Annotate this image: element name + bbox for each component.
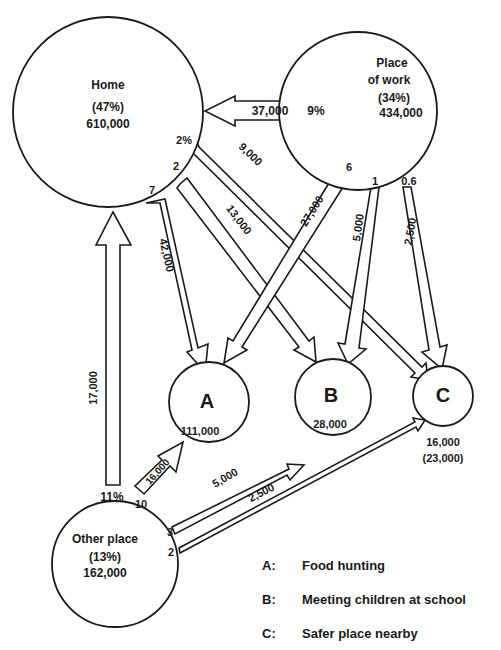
work-pct: (34%)	[378, 91, 410, 105]
pct-work-to-home: 9%	[307, 104, 325, 118]
pct-work-to-b: 1	[372, 175, 378, 187]
legend-label: Safer place nearby	[302, 626, 418, 650]
legend-item-c: C: Safer place nearby	[262, 626, 466, 650]
work-name-1: Place	[376, 56, 408, 70]
legend-key: A:	[262, 558, 302, 592]
legend-key: B:	[262, 592, 302, 626]
c-value-alt: (23,000)	[423, 452, 464, 464]
b-letter: B	[324, 384, 338, 406]
c-value: 16,000	[426, 436, 460, 448]
pct-other-to-c: 2	[168, 546, 174, 558]
other-value: 162,000	[83, 566, 127, 580]
a-letter: A	[200, 390, 214, 412]
flow-diagram: Home (47%) 610,000 Place of work (34%) 4…	[0, 0, 501, 650]
pct-work-to-c: 0.6	[401, 175, 416, 187]
c-letter: C	[436, 384, 450, 406]
pct-work-to-a: 6	[346, 161, 352, 173]
b-value: 28,000	[313, 418, 347, 430]
legend-item-b: B: Meeting children at school	[262, 592, 466, 626]
pct-home-to-a: 7	[149, 184, 155, 196]
pct-other-to-home: 11%	[100, 490, 124, 504]
arrow-other-to-home	[96, 212, 131, 485]
home-value: 610,000	[86, 117, 130, 131]
home-name: Home	[91, 78, 125, 92]
legend-label: Meeting children at school	[302, 592, 466, 626]
work-name-2: of work	[368, 73, 411, 87]
legend-key: C:	[262, 626, 302, 650]
arrow-work-to-b	[338, 187, 379, 364]
legend: A: Food hunting B: Meeting children at s…	[262, 558, 466, 650]
pct-other-to-a: 10	[135, 498, 147, 510]
legend-item-a: A: Food hunting	[262, 558, 466, 592]
arrow-work-to-c	[403, 187, 447, 369]
other-name: Other place	[72, 532, 138, 546]
pct-home-to-b: 2	[173, 160, 179, 172]
flow-home-to-c-value: 9,000	[237, 140, 265, 168]
pct-other-to-b: 3	[167, 526, 173, 538]
work-value: 434,000	[379, 106, 423, 120]
arrow-home-to-a	[146, 199, 208, 372]
node-other	[52, 501, 178, 627]
a-value: 111,000	[181, 425, 220, 437]
flow-other-to-home-value: 17,000	[87, 371, 99, 405]
other-pct: (13%)	[89, 550, 121, 564]
legend-label: Food hunting	[302, 558, 385, 592]
flow-other-to-b-value: 5,000	[210, 465, 240, 489]
flow-work-to-home-value: 37,000	[252, 104, 289, 118]
pct-home-to-c: 2%	[176, 134, 192, 146]
flow-other-to-a-value: 16,000	[143, 456, 172, 486]
home-pct: (47%)	[92, 100, 124, 114]
